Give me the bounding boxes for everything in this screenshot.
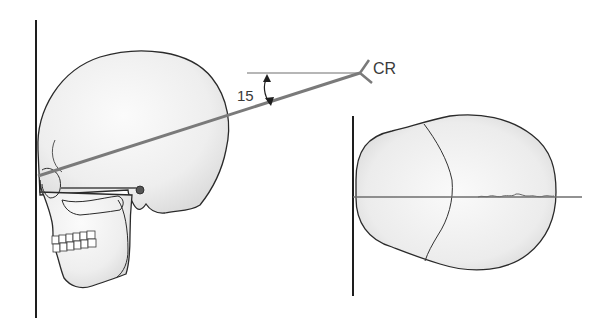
angle-arrowhead-top (263, 74, 271, 82)
lateral-skull-view (36, 20, 372, 318)
x-ray-tube-symbol (360, 60, 372, 83)
superior-skull-view (353, 115, 582, 296)
positioning-diagram: CR 15 (0, 0, 613, 320)
angle-label: 15 (237, 88, 254, 103)
diagram-canvas (0, 0, 613, 320)
ear-canal-marker (136, 186, 144, 194)
skull-top-outline (356, 115, 556, 270)
central-ray-label: CR (373, 61, 396, 77)
